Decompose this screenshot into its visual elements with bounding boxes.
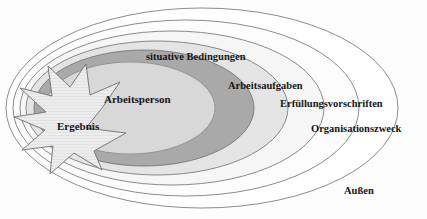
label-arbeitsaufgaben: Arbeitsaufgaben: [228, 80, 303, 91]
label-erfuellungsvorschriften: Erfüllungsvorschriften: [280, 98, 383, 109]
label-arbeitsperson: Arbeitsperson: [104, 93, 171, 105]
diagram-canvas: situative Bedingungen Arbeitsaufgaben Er…: [0, 0, 427, 219]
label-aussen: Außen: [344, 185, 374, 196]
label-ergebnis: Ergebnis: [57, 120, 99, 132]
label-organisationszweck: Organisationszweck: [311, 123, 401, 134]
label-situative-bedingungen: situative Bedingungen: [146, 51, 245, 62]
